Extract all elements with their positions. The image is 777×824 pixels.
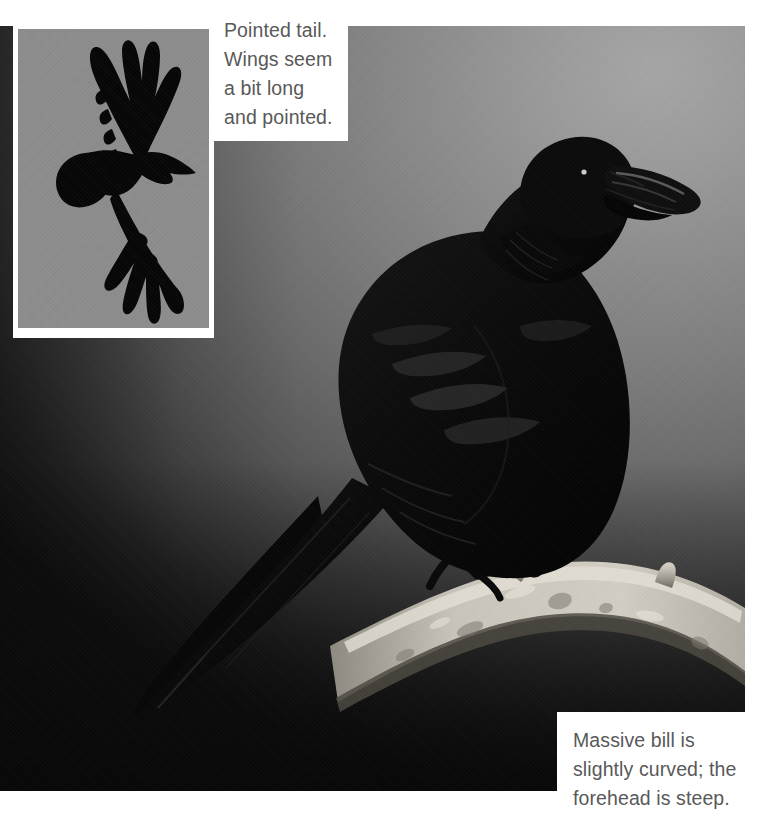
field-guide-plate: Pointed tail. Wings seem a bit long and …	[0, 0, 777, 824]
raven-body	[132, 137, 701, 716]
caption-massive-bill: Massive bill is slightly curved; the for…	[557, 712, 777, 824]
inset-photo-area	[18, 29, 209, 328]
flight-silhouette-inset	[13, 26, 214, 338]
raven-flight-silhouette	[18, 29, 209, 328]
caption-pointed-tail: Pointed tail. Wings seem a bit long and …	[214, 0, 348, 141]
